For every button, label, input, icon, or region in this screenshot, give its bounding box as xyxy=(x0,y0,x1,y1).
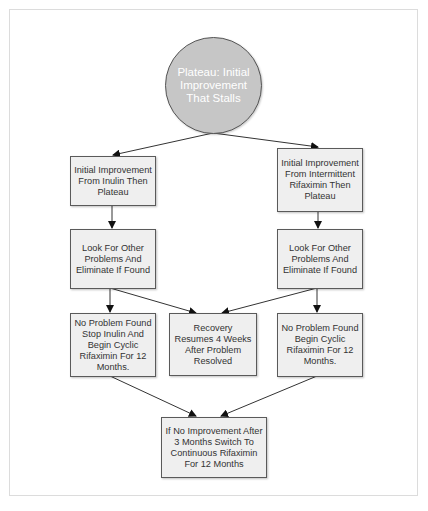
rifaximin-plateau-label: Initial Improvement From Intermittent Ri… xyxy=(281,158,359,202)
recovery-node: Recovery Resumes 4 Weeks After Problem R… xyxy=(169,313,257,376)
arrow-start-to-rifaximin xyxy=(213,133,318,147)
look-left-label: Look For Other Problems And Eliminate If… xyxy=(74,243,152,276)
arrow-no-problem-inulin-to-no-improvement xyxy=(110,376,196,416)
no-improvement-node: If No Improvement After 3 Months Switch … xyxy=(161,417,267,478)
no-problem-rifaximin-label: No Problem Found Begin Cyclic Rifaximin … xyxy=(281,323,359,367)
no-problem-rifaximin-node: No Problem Found Begin Cyclic Rifaximin … xyxy=(277,313,363,377)
look-left-node: Look For Other Problems And Eliminate If… xyxy=(70,229,156,289)
no-problem-inulin-label: No Problem Found Stop Inulin And Begin C… xyxy=(74,318,152,373)
arrow-look-left-to-recovery xyxy=(110,288,196,313)
no-improvement-label: If No Improvement After 3 Months Switch … xyxy=(165,426,263,470)
start-node: Plateau: Initial Improvement That Stalls xyxy=(165,37,262,134)
start-node-label: Plateau: Initial Improvement That Stalls xyxy=(172,66,255,105)
arrow-start-to-inulin xyxy=(113,133,213,155)
no-problem-inulin-node: No Problem Found Stop Inulin And Begin C… xyxy=(70,313,156,377)
look-right-node: Look For Other Problems And Eliminate If… xyxy=(277,229,363,289)
arrow-look-right-to-recovery xyxy=(222,288,317,313)
inulin-plateau-label: Initial Improvement From Inulin Then Pla… xyxy=(74,165,152,198)
recovery-label: Recovery Resumes 4 Weeks After Problem R… xyxy=(173,323,253,367)
inulin-plateau-node: Initial Improvement From Inulin Then Pla… xyxy=(70,156,156,206)
rifaximin-plateau-node: Initial Improvement From Intermittent Ri… xyxy=(277,148,363,212)
arrow-no-problem-rifaximin-to-no-improvement xyxy=(221,376,317,416)
look-right-label: Look For Other Problems And Eliminate If… xyxy=(281,243,359,276)
